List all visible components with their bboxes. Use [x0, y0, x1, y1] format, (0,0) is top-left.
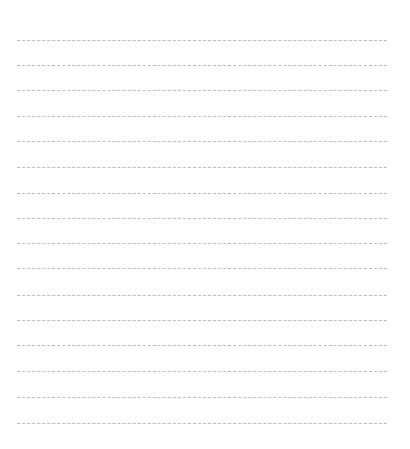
ruled-line: [17, 65, 387, 66]
ruled-line: [17, 167, 387, 168]
ruled-page: [0, 0, 410, 449]
ruled-line: [17, 371, 387, 372]
ruled-line: [17, 268, 387, 269]
ruled-line: [17, 141, 387, 142]
ruled-line: [17, 243, 387, 244]
ruled-line: [17, 116, 387, 117]
ruled-line: [17, 423, 387, 424]
ruled-line: [17, 90, 387, 91]
ruled-line: [17, 40, 387, 41]
ruled-line: [17, 295, 387, 296]
ruled-line: [17, 345, 387, 346]
ruled-line: [17, 193, 387, 194]
ruled-line: [17, 218, 387, 219]
ruled-line: [17, 320, 387, 321]
ruled-line: [17, 397, 387, 398]
